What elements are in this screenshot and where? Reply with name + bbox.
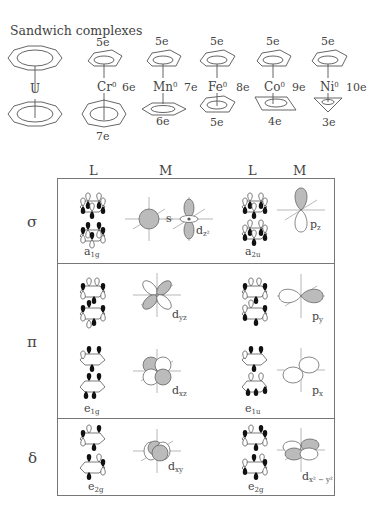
ligand-e1g-icon <box>80 278 105 304</box>
orbital-label-pz: pz <box>310 218 321 232</box>
orbital-label-s: s <box>166 212 172 225</box>
orbital-label-dxy: dxy <box>168 460 183 474</box>
ligand-e1u-icon <box>242 278 267 304</box>
ligand-a1g-icon <box>80 193 105 219</box>
orbital-label-dxz: dxz <box>172 384 187 398</box>
ligand-a2u-icon <box>242 193 267 219</box>
orbital-label-dyz: dyz <box>172 308 187 322</box>
dx2-y2-orbital-icon <box>277 428 325 472</box>
irrep-e2g-right: e2g <box>248 480 263 494</box>
orbital-table <box>0 0 382 510</box>
irrep-a2u: a2u <box>245 245 261 259</box>
orbital-label-dz2: dz² <box>196 224 210 238</box>
irrep-e2g-left: e2g <box>88 480 103 494</box>
orbital-label-px: px <box>312 384 323 398</box>
orbital-label-py: py <box>312 310 323 324</box>
irrep-e1g: e1g <box>84 402 99 416</box>
ligand-e2g-right-icon <box>242 425 267 451</box>
irrep-a1g: a1g <box>84 245 100 259</box>
irrep-e1u: e1u <box>245 402 260 416</box>
ligand-e2g-left-icon <box>80 425 105 451</box>
orbital-label-dx2-y2: dx² − y² <box>302 470 333 484</box>
